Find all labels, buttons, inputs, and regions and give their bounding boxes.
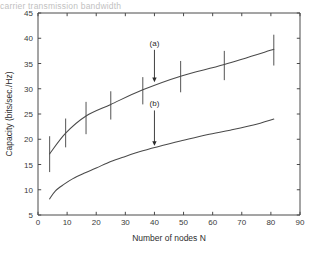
y-tick-label: 20 [24, 135, 33, 144]
curve-annotations: (a)(b) [150, 39, 160, 146]
y-tick-label: 5 [29, 211, 34, 220]
y-tick-label: 30 [24, 85, 33, 94]
x-tick-label: 60 [208, 218, 217, 227]
y-tick-label: 15 [24, 161, 33, 170]
y-tick-labels: 51015202530354045 [24, 9, 33, 220]
x-tick-label: 10 [63, 218, 72, 227]
x-axis-title: Number of nodes N [132, 233, 206, 243]
figure-container: carrier transmission bandwidth 010203040… [0, 0, 315, 259]
x-tick-label: 80 [266, 218, 275, 227]
x-tick-label: 40 [150, 218, 159, 227]
x-tick-label: 70 [237, 218, 246, 227]
annotation-arrow-head [152, 141, 156, 146]
series-b-curve [50, 119, 274, 199]
x-tick-label: 50 [179, 218, 188, 227]
x-tick-label: 20 [92, 218, 101, 227]
annotation-arrow-head [152, 78, 156, 83]
cut-off-header-text: carrier transmission bandwidth [0, 0, 315, 12]
y-axis-title: Capacity (bits/sec./Hz) [4, 71, 14, 156]
y-tick-label: 35 [24, 60, 33, 69]
x-tick-label: 0 [36, 218, 41, 227]
capacity-vs-nodes-chart: 0102030405060708090 51015202530354045 Nu… [0, 0, 315, 259]
series-a-curve [50, 49, 274, 154]
axes [38, 13, 300, 215]
series-a-error-bars [50, 35, 274, 172]
x-tick-label: 30 [121, 218, 130, 227]
x-tick-label: 90 [296, 218, 305, 227]
annotation-label-a: (a) [150, 39, 160, 48]
y-tick-label: 10 [24, 186, 33, 195]
y-tick-label: 25 [24, 110, 33, 119]
x-tick-labels: 0102030405060708090 [36, 218, 305, 227]
y-tick-label: 40 [24, 34, 33, 43]
annotation-label-b: (b) [150, 99, 160, 108]
axis-ticks [38, 13, 300, 215]
